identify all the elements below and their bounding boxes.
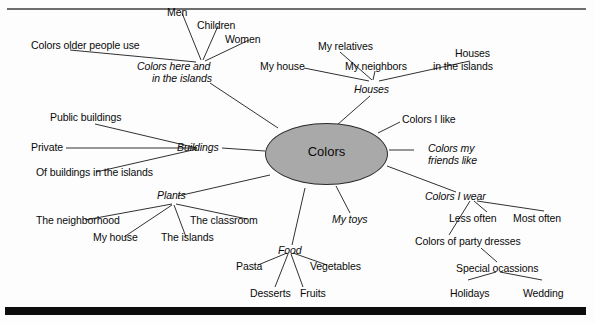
- node-houses-in-the-islands-line1[interactable]: Houses: [455, 48, 490, 60]
- node-houses[interactable]: Houses: [354, 84, 389, 96]
- edge-desserts: [275, 254, 288, 287]
- node-my-house-plants[interactable]: My house: [93, 232, 138, 244]
- node-the-classroom[interactable]: The classroom: [190, 215, 258, 227]
- edge-buildings-to-center: [222, 148, 265, 151]
- node-wedding[interactable]: Wedding: [523, 288, 564, 300]
- frame-top-rule: [7, 8, 586, 10]
- node-my-house-houses[interactable]: My house: [260, 61, 305, 73]
- edge-most-often: [477, 201, 544, 211]
- node-special-ocassions[interactable]: Special ocassions: [456, 263, 538, 275]
- node-public-buildings[interactable]: Public buildings: [50, 112, 121, 124]
- node-my-toys[interactable]: My toys: [332, 214, 367, 226]
- node-men[interactable]: Men: [167, 7, 187, 19]
- edge-plants-to-center: [178, 175, 270, 196]
- node-colors-i-like[interactable]: Colors I like: [402, 114, 456, 126]
- node-pasta[interactable]: Pasta: [236, 261, 262, 273]
- node-my-relatives[interactable]: My relatives: [318, 41, 373, 53]
- node-houses-in-the-islands-line2[interactable]: in the islands: [433, 61, 493, 73]
- edge-less-often: [474, 201, 487, 212]
- node-colors-here-and-in-the-islands-line1[interactable]: Colors here and: [137, 61, 210, 73]
- edge-colors-i-wear-to-center: [387, 166, 456, 192]
- node-my-neighbors[interactable]: My neighbors: [345, 61, 407, 73]
- node-colors-my-friends-like-line1[interactable]: Colors my: [428, 143, 474, 155]
- node-most-often[interactable]: Most often: [513, 213, 561, 225]
- frame-bottom-bar: [5, 307, 586, 315]
- node-women[interactable]: Women: [225, 34, 261, 46]
- edge-food-to-center: [292, 188, 305, 245]
- mind-map-page: Colors Men Children Women Colors older p…: [0, 0, 595, 323]
- edge-fruits: [291, 254, 303, 287]
- node-buildings[interactable]: Buildings: [177, 142, 219, 154]
- node-colors-here-and-in-the-islands-line2[interactable]: in the islands: [152, 73, 212, 85]
- node-desserts[interactable]: Desserts: [250, 288, 291, 300]
- edge-colors-i-like-to-center: [378, 122, 400, 133]
- edge-my-toys-to-center: [336, 186, 350, 213]
- edge-special-ocassions: [481, 248, 497, 262]
- node-colors-of-party-dresses[interactable]: Colors of party dresses: [415, 236, 521, 248]
- node-food[interactable]: Food: [278, 245, 302, 257]
- edge-colors-here-to-center: [210, 83, 278, 128]
- central-node-label: Colors: [265, 144, 388, 159]
- node-of-buildings-in-the-islands[interactable]: Of buildings in the islands: [36, 167, 153, 179]
- node-vegetables[interactable]: Vegetables: [310, 261, 361, 273]
- node-fruits[interactable]: Fruits: [300, 288, 326, 300]
- node-colors-i-wear[interactable]: Colors I wear: [425, 191, 486, 203]
- edge-houses-to-center: [337, 96, 370, 125]
- node-the-neighborhood[interactable]: The neighborhood: [36, 215, 120, 227]
- node-less-often[interactable]: Less often: [449, 213, 496, 225]
- node-plants[interactable]: Plants: [157, 190, 186, 202]
- node-colors-my-friends-like-line2[interactable]: friends like: [428, 155, 477, 167]
- node-holidays[interactable]: Holidays: [450, 288, 489, 300]
- node-children[interactable]: Children: [197, 20, 235, 32]
- node-private[interactable]: Private: [31, 142, 63, 154]
- node-colors-older-people-use[interactable]: Colors older people use: [31, 40, 140, 52]
- node-the-islands[interactable]: The islands: [161, 232, 214, 244]
